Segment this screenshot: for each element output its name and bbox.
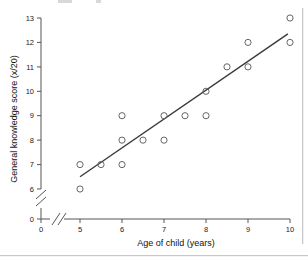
x-tick-label-0: 0 [39,225,43,234]
x-tick-label-5: 5 [78,225,82,234]
x-axis-title: Age of child (years) [137,238,215,248]
x-tick-label-8: 8 [204,225,208,234]
scan-artifact-top-right [96,0,101,3]
x-tick-label-7: 7 [162,225,166,234]
x-tick-label-9: 9 [246,225,250,234]
y-tick-label-10: 10 [26,87,34,96]
x-tick-label-6: 6 [120,225,124,234]
y-tick-label-9: 9 [30,111,34,120]
scan-artifact-bottom-edge [0,255,308,256]
plot-background [0,0,308,261]
y-tick-label-0: 0 [30,215,34,224]
y-tick-label-8: 8 [30,136,34,145]
y-tick-label-12: 12 [26,38,34,47]
y-tick-label-6: 6 [30,185,34,194]
scan-artifact-right-edge [302,8,303,244]
chart-figure: 13 12 11 10 9 8 7 6 0 General knowledge … [0,0,308,261]
scan-artifact-top-left [58,0,72,3]
y-axis-title: General knowledge score (x/20) [9,55,19,183]
x-tick-label-10: 10 [286,225,294,234]
y-tick-label-13: 13 [26,14,34,23]
scatter-plot: 13 12 11 10 9 8 7 6 0 General knowledge … [0,0,308,261]
y-tick-label-11: 11 [26,63,34,72]
y-tick-label-7: 7 [30,160,34,169]
